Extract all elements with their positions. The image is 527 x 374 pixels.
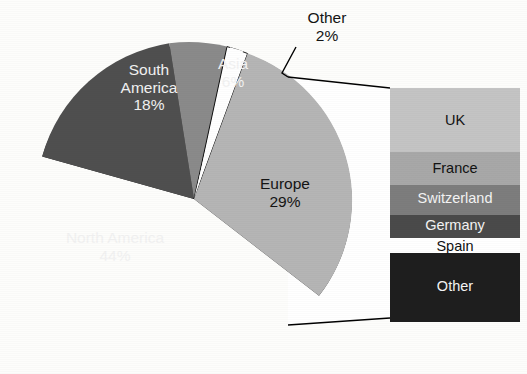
pie-label-europe: Europe 29%: [240, 175, 330, 210]
pie-label-asia: Asia 6%: [205, 55, 261, 90]
pie-label-south-america: South America 18%: [97, 61, 201, 114]
bar-label-other: Other: [390, 278, 520, 294]
pie-label-north-america-name: North America: [66, 229, 164, 246]
bar-label-spain: Spain: [390, 238, 520, 254]
pie-label-south-america-name-line2: America: [121, 79, 178, 96]
pie-label-other-percent: 2%: [287, 27, 367, 45]
pie-label-south-america-name-line1: South: [129, 61, 170, 78]
bar-label-france: France: [390, 160, 520, 176]
pie-label-other: Other 2%: [287, 9, 367, 44]
pie-label-asia-name: Asia: [218, 55, 248, 72]
bar-label-uk: UK: [390, 112, 520, 128]
pie-label-north-america-percent: 44%: [40, 247, 190, 265]
pie-label-north-america: North America 44%: [40, 229, 190, 264]
pie-label-europe-percent: 29%: [240, 193, 330, 211]
chart-canvas: North America 44% South America 18% Asia…: [0, 0, 527, 374]
pie-label-asia-percent: 6%: [205, 73, 261, 91]
pie-label-other-name: Other: [308, 9, 347, 26]
pie-label-south-america-percent: 18%: [97, 96, 201, 114]
pie-label-europe-name: Europe: [260, 175, 310, 192]
bar-label-germany: Germany: [390, 217, 520, 233]
bar-label-switzerland: Switzerland: [390, 190, 520, 206]
